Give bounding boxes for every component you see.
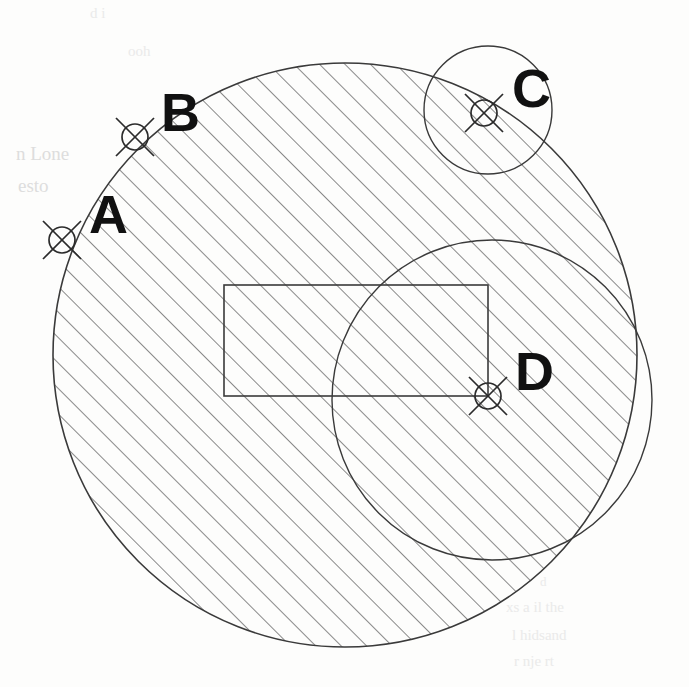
bleed-fragment: d i	[90, 5, 105, 21]
bleed-fragment: r nje rt	[514, 653, 555, 669]
bleed-fragment: esto	[18, 175, 49, 196]
point-label-d: D	[515, 341, 554, 401]
point-marker-a[interactable]	[43, 221, 81, 259]
point-marker-c[interactable]	[465, 94, 503, 132]
bleed-fragment: xs a il the	[506, 599, 564, 615]
bleed-fragment: n Lone	[16, 143, 69, 164]
bleed-fragment: l hidsand	[512, 627, 567, 643]
bleed-fragment: ooh	[128, 43, 151, 59]
point-label-a: A	[89, 184, 128, 244]
point-label-c: C	[512, 58, 551, 118]
geometric-figure-canvas: d i ooh n Lone esto d xs a il the l hids…	[0, 0, 689, 687]
point-marker-b[interactable]	[116, 118, 154, 156]
point-label-b: B	[161, 82, 200, 142]
figure-drawing: d i ooh n Lone esto d xs a il the l hids…	[0, 0, 689, 687]
bleed-fragment: d	[540, 574, 547, 589]
point-marker-d[interactable]	[469, 377, 507, 415]
